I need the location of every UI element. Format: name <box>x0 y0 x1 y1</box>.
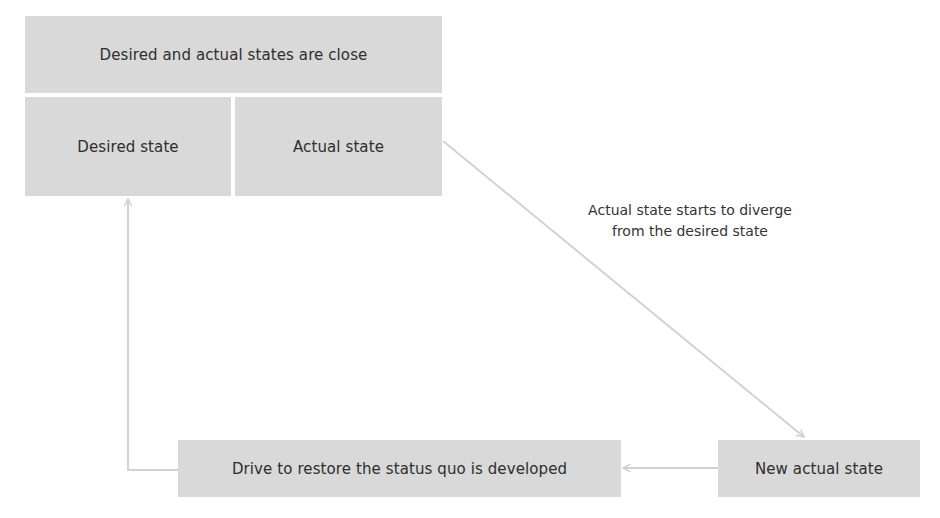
drive-to-desired-arrow <box>128 199 178 470</box>
states-close-box: Desired and actual states are close <box>25 16 442 93</box>
diverge-annotation: Actual state starts to diverge from the … <box>560 200 820 242</box>
actual-state-box: Actual state <box>235 97 442 196</box>
diverge-line-2: from the desired state <box>560 221 820 242</box>
restore-drive-box: Drive to restore the status quo is devel… <box>178 440 621 497</box>
diverge-line-1: Actual state starts to diverge <box>560 200 820 221</box>
new-actual-state-label: New actual state <box>755 460 883 478</box>
diverge-arrow <box>443 141 804 437</box>
desired-state-label: Desired state <box>77 138 178 156</box>
actual-state-label: Actual state <box>293 138 384 156</box>
states-close-label: Desired and actual states are close <box>100 46 368 64</box>
new-actual-state-box: New actual state <box>718 440 920 497</box>
restore-drive-label: Drive to restore the status quo is devel… <box>232 460 567 478</box>
desired-state-box: Desired state <box>25 97 231 196</box>
